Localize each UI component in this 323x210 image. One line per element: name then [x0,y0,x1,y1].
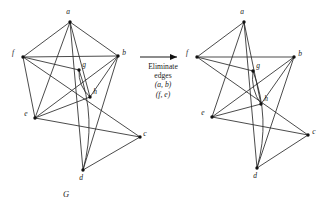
graph-G: afbghecdG [12,7,147,199]
edge-a-f [23,22,70,57]
vertex-b[interactable] [116,54,119,57]
vertex-g[interactable] [251,69,254,72]
graph-figure: afbghecdGafbghecd [0,0,323,210]
edge-f-c [197,57,308,135]
edge-f-g [197,57,253,71]
vertex-label-c: c [312,127,316,136]
vertex-h[interactable] [88,95,91,98]
edge-c-d [257,135,308,168]
vertex-c[interactable] [306,133,309,136]
caption-line-1: Eliminate [133,62,193,71]
graph-caption: G [63,189,69,199]
vertex-d[interactable] [255,166,258,169]
vertex-g[interactable] [77,68,80,71]
vertex-label-h: h [93,87,97,96]
arrow-head [170,54,177,60]
vertex-label-e: e [24,109,28,118]
transform-arrow [140,54,177,60]
edge-e-h [35,97,90,118]
edge-f-g [23,57,79,70]
vertex-e[interactable] [33,116,36,119]
vertex-label-e: e [201,108,205,117]
caption-line-4: (f, e) [133,90,193,99]
edge-f-c [23,57,140,137]
vertex-label-f: f [12,48,15,57]
edge-b-e [35,56,118,118]
graph-G-prime: afbghecd [186,7,316,180]
graphs-layer: afbghecdGafbghecd [12,7,316,199]
vertex-d[interactable] [81,168,84,171]
edge-f-b [23,56,118,57]
vertex-label-c: c [143,129,147,138]
vertex-label-f: f [186,48,189,57]
vertex-c[interactable] [138,135,141,138]
vertex-label-g: g [82,60,86,69]
vertex-e[interactable] [210,115,213,118]
vertex-label-d: d [79,173,83,182]
edge-a-f [197,22,244,57]
vertex-a[interactable] [68,20,71,23]
edge-e-c [212,117,308,135]
vertex-f[interactable] [21,55,24,58]
caption-line-3: (a, b) [133,80,193,89]
vertex-label-a: a [66,7,70,16]
vertex-label-b: b [122,48,126,57]
edge-e-c [35,118,140,137]
vertex-label-g: g [256,61,260,70]
transform-caption: Eliminate edges (a, b) (f, e) [133,62,193,99]
caption-line-2: edges [133,71,193,80]
edge-a-e [212,22,244,117]
edge-e-h [212,104,261,117]
edge-a-d [70,22,83,170]
vertex-a[interactable] [242,20,245,23]
vertex-label-d: d [253,171,257,180]
vertex-label-a: a [240,7,244,16]
vertex-h[interactable] [259,102,262,105]
vertex-b[interactable] [292,55,295,58]
vertex-f[interactable] [195,55,198,58]
vertex-label-h: h [264,94,268,103]
edge-a-e [35,22,70,118]
vertex-label-b: b [298,49,302,58]
edge-a-b [70,22,118,56]
